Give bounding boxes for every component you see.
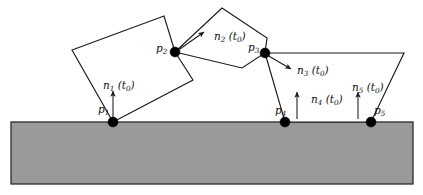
label-n3-arg: (t <box>308 64 320 76</box>
label-n2-index: 2 <box>221 35 226 44</box>
label-n4-index: 4 <box>318 98 323 107</box>
label-p5-symbol: p <box>374 104 381 116</box>
label-n3: n3 (t0) <box>297 65 329 76</box>
contact-dot-p3 <box>260 48 270 58</box>
label-n1: n1 (t0) <box>103 80 135 91</box>
label-p3-index: 3 <box>255 46 260 55</box>
ground-plane <box>11 122 413 184</box>
label-n1-symbol: n <box>103 79 110 91</box>
label-p1-index: 1 <box>105 108 110 117</box>
contact-normals-figure: n1 (t0) n2 (t0) n3 (t0) n4 (t0) n5 (t0) … <box>0 0 423 195</box>
label-p1-symbol: p <box>98 103 105 115</box>
figure-canvas <box>0 0 423 195</box>
label-n5-argsub: 0 <box>375 86 380 95</box>
label-p4-symbol: p <box>275 104 282 116</box>
label-n2: n2 (t0) <box>214 31 246 42</box>
label-p2-symbol: p <box>156 42 163 54</box>
label-n5: n5 (t0) <box>352 82 384 93</box>
contact-dot-p1 <box>108 117 118 127</box>
label-p2: p2 <box>156 43 167 54</box>
label-n4-arg: (t <box>322 93 334 105</box>
label-p1: p1 <box>98 104 109 115</box>
contact-dot-p5 <box>366 117 376 127</box>
label-n4-symbol: n <box>311 93 318 105</box>
label-p5-index: 5 <box>381 109 386 118</box>
label-p3-symbol: p <box>248 41 255 53</box>
label-n4-argsub: 0 <box>334 98 339 107</box>
label-n2-arg: (t <box>225 30 237 42</box>
label-p2-index: 2 <box>163 47 168 56</box>
label-n2-argend: ) <box>242 30 246 42</box>
label-n2-argsub: 0 <box>237 35 242 44</box>
label-n5-symbol: n <box>352 81 359 93</box>
label-n3-symbol: n <box>297 64 304 76</box>
label-n4: n4 (t0) <box>311 94 343 105</box>
contact-dot-p4 <box>280 117 290 127</box>
label-n5-index: 5 <box>359 86 364 95</box>
label-n3-argend: ) <box>325 64 329 76</box>
label-n4-argend: ) <box>339 93 343 105</box>
label-n3-index: 3 <box>304 69 309 78</box>
contact-dot-p2 <box>170 47 180 57</box>
label-n1-argend: ) <box>131 79 135 91</box>
label-p5: p5 <box>374 105 385 116</box>
label-n5-argend: ) <box>380 81 384 93</box>
label-n2-symbol: n <box>214 30 221 42</box>
label-p3: p3 <box>248 42 259 53</box>
label-n5-arg: (t <box>363 81 375 93</box>
polygon-body-1 <box>72 16 193 122</box>
label-n1-arg: (t <box>114 79 126 91</box>
label-n3-argsub: 0 <box>320 69 325 78</box>
label-p4: p4 <box>275 105 286 116</box>
label-p4-index: 4 <box>282 109 287 118</box>
label-n1-argsub: 0 <box>126 84 131 93</box>
label-n1-index: 1 <box>110 84 115 93</box>
